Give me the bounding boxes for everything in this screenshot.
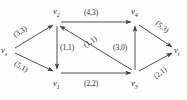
node-vs-sub: s — [5, 51, 7, 57]
node-v3-sub: 3 — [135, 84, 138, 90]
node-label-vs: vs — [1, 46, 7, 57]
edge-label-v3-v4: (3,0) — [113, 44, 127, 52]
node-label-v3: v3 — [131, 79, 138, 90]
node-v4-sub: 4 — [135, 12, 138, 18]
node-label-vt: vt — [174, 46, 179, 57]
node-v2-sub: 2 — [57, 12, 60, 18]
node-label-v4: v4 — [131, 7, 138, 18]
node-label-v2: v2 — [53, 7, 60, 18]
flow-network-figure: vs v2 v4 v1 v3 vt (3,3) (5,1) (1,1) (4,3… — [0, 0, 187, 100]
edge-label-v1-v3: (2,2) — [84, 80, 98, 88]
node-vt-sub: t — [178, 51, 180, 57]
edge-label-v2-v1: (1,1) — [60, 44, 74, 52]
edge-v3-vt — [139, 53, 172, 71]
edge-label-v2-v4: (4,3) — [84, 9, 98, 17]
node-v1-sub: 1 — [57, 84, 60, 90]
node-label-v1: v1 — [53, 79, 60, 90]
